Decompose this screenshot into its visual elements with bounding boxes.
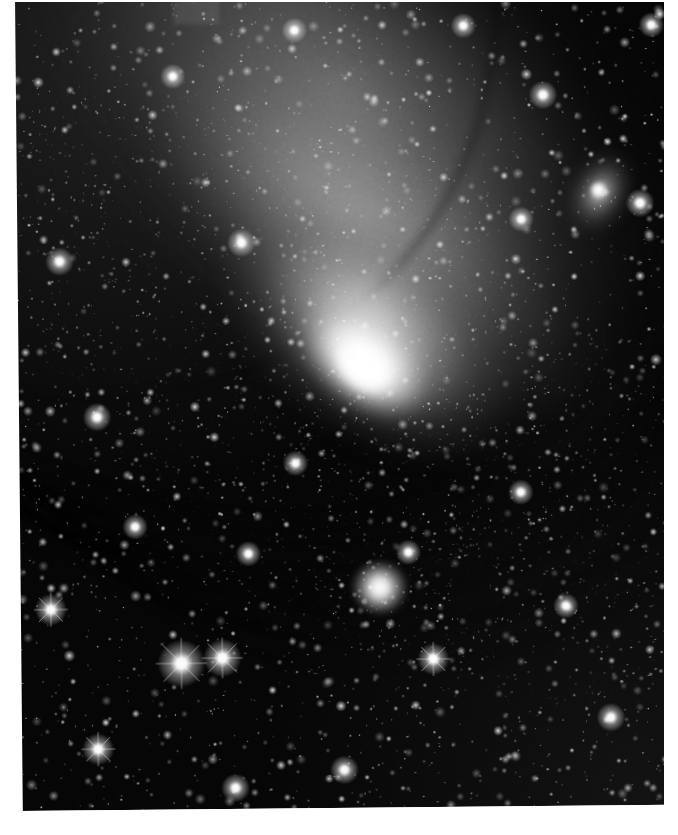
plate-margin-top: [0, 0, 678, 2]
plate-margin-left: [0, 0, 15, 835]
photographic-plate: [15, 0, 673, 811]
night-sky-background: [15, 0, 673, 811]
plate-blemish: [173, 0, 219, 24]
companion-galaxy-m110-nucleus: [591, 182, 606, 197]
plate-wrapper: [0, 0, 678, 835]
photo-canvas: [0, 0, 678, 835]
plate-margin-bottom: [0, 812, 678, 835]
companion-galaxy-m32: [352, 562, 406, 613]
plate-margin-right: [664, 0, 678, 835]
